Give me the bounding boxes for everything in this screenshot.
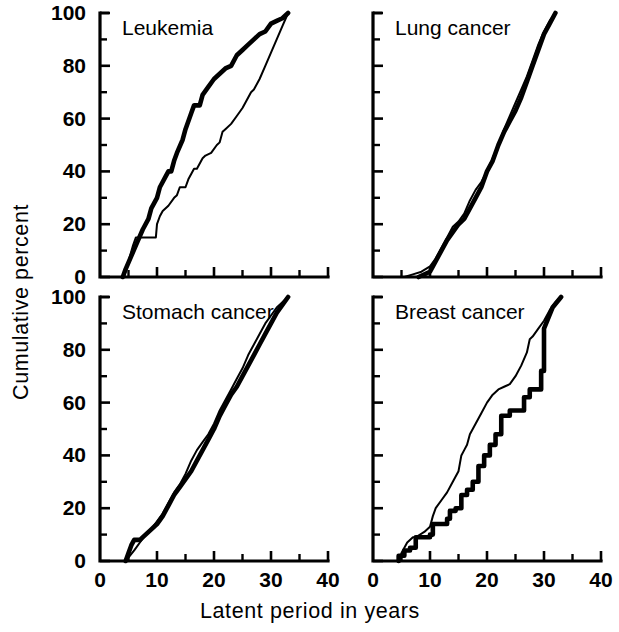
panel-lung-cancer: Lung cancer [373, 13, 601, 277]
figure-cumulative-latent-period: Cumulative percent Latent period in year… [0, 0, 619, 632]
y-ticklabel-leukemia-100: 100 [51, 1, 86, 24]
y-ticklabel-leukemia-60: 60 [63, 107, 86, 130]
curve-stomach-cancer-thick-curve [126, 297, 288, 561]
panel-leukemia: 020406080100Leukemia [51, 1, 328, 288]
curve-leukemia-thin-curve [124, 13, 288, 277]
y-ticklabel-stomach-cancer-100: 100 [51, 285, 86, 308]
y-ticklabel-leukemia-40: 40 [63, 159, 86, 182]
x-ticklabel-breast-cancer-0: 0 [367, 568, 379, 591]
y-axis-title: Cumulative percent [9, 204, 33, 400]
axis-spines-lung-cancer [373, 13, 601, 277]
panel-stomach-cancer: 020406080100010203040Stomach cancer [51, 285, 340, 591]
curve-breast-cancer-thin-curve [399, 297, 561, 561]
x-ticklabel-breast-cancer-20: 20 [475, 568, 498, 591]
panel-title-breast-cancer: Breast cancer [395, 300, 525, 323]
x-ticklabel-breast-cancer-10: 10 [418, 568, 441, 591]
y-ticklabel-stomach-cancer-20: 20 [63, 496, 86, 519]
x-ticklabel-stomach-cancer-30: 30 [259, 568, 282, 591]
x-ticklabel-stomach-cancer-40: 40 [316, 568, 339, 591]
y-ticklabel-stomach-cancer-60: 60 [63, 391, 86, 414]
x-ticklabel-stomach-cancer-20: 20 [202, 568, 225, 591]
axis-spines-leukemia [100, 13, 328, 277]
x-ticklabel-breast-cancer-40: 40 [589, 568, 612, 591]
x-ticklabel-breast-cancer-30: 30 [532, 568, 555, 591]
panel-title-stomach-cancer: Stomach cancer [122, 300, 274, 323]
panel-title-lung-cancer: Lung cancer [395, 16, 511, 39]
panel-title-leukemia: Leukemia [122, 16, 213, 39]
y-ticklabel-stomach-cancer-40: 40 [63, 443, 86, 466]
panel-breast-cancer: 010203040Breast cancer [367, 297, 613, 591]
x-ticklabel-stomach-cancer-10: 10 [145, 568, 168, 591]
panel-group: 020406080100LeukemiaLung cancer020406080… [51, 1, 613, 591]
x-axis-title: Latent period in years [200, 599, 420, 623]
y-ticklabel-leukemia-20: 20 [63, 212, 86, 235]
axis-spines-breast-cancer [373, 297, 601, 561]
y-ticklabel-stomach-cancer-80: 80 [63, 338, 86, 361]
curve-breast-cancer-thick-curve [399, 297, 561, 561]
curve-lung-cancer-thin-curve [404, 13, 555, 277]
x-ticklabel-stomach-cancer-0: 0 [94, 568, 106, 591]
y-ticklabel-leukemia-80: 80 [63, 54, 86, 77]
four-panel-chart: Cumulative percent Latent period in year… [0, 0, 619, 632]
y-ticklabel-stomach-cancer-0: 0 [74, 549, 86, 572]
